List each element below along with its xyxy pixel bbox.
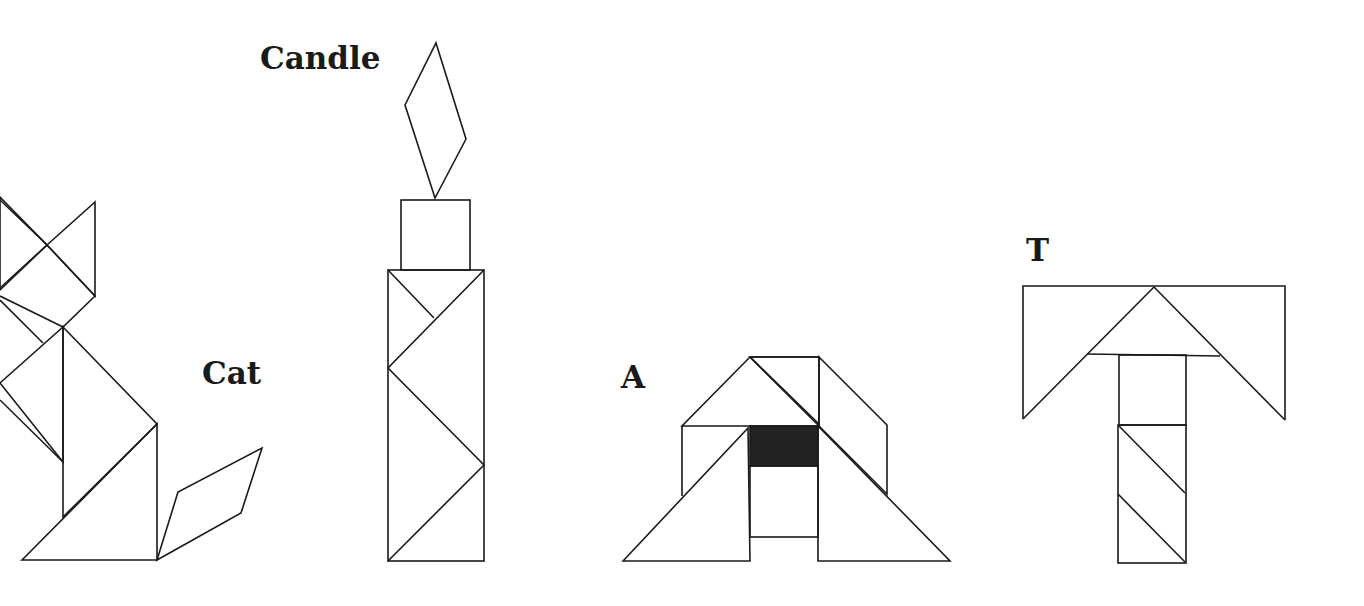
letter-a-figure: A [620,357,950,561]
t-stem-diagonal-1 [1119,426,1185,493]
cat-figure: Cat [0,197,262,560]
candle-label: Candle [260,40,380,76]
candle-flame-parallelogram [405,43,466,198]
cat-head-edge [0,245,47,288]
t-right-triangle-edge [1154,287,1285,420]
a-center-rectangle [750,466,818,537]
a-right-parallelogram [819,357,887,494]
candle-small-triangle-edge [388,270,434,318]
candle-top-square [401,200,470,270]
letter-a-label: A [620,359,646,395]
t-stem-square [1119,355,1186,425]
cat-body-large-triangle [63,327,157,517]
cat-neck-triangle [0,327,63,462]
cat-neck-lower-edge [0,400,63,462]
cat-head-square [0,197,47,290]
candle-figure: Candle [260,40,484,561]
t-stem-lower-rectangle [1118,425,1186,563]
cat-label: Cat [202,355,262,391]
a-left-top-triangle [682,357,819,426]
a-black-square [750,426,818,466]
letter-t-figure: T [1023,232,1285,563]
cat-tail-parallelogram [157,448,262,560]
t-stem-diagonal-2 [1118,494,1185,562]
a-left-large-triangle [623,428,750,561]
letter-t-label: T [1026,232,1049,268]
candle-zigzag [388,270,484,561]
t-top-bar [1023,286,1285,420]
cat-base-large-triangle [22,424,157,560]
a-right-large-triangle [818,426,950,561]
cat-head-lines [0,200,95,327]
tangram-figures-canvas: Cat Candle A T [0,0,1364,606]
t-left-triangle-edge [1023,287,1154,419]
cat-ear-triangle [47,202,95,296]
